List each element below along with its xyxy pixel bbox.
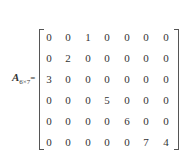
matrix-cell: 0 — [159, 51, 173, 65]
matrix-grid: 0010000020000030000000005000000060000000… — [42, 29, 174, 148]
matrix-row: 3000000 — [42, 72, 174, 88]
matrix-cell: 0 — [100, 30, 114, 44]
matrix-row: 0000600 — [42, 114, 174, 130]
matrix-cell: 0 — [61, 135, 75, 149]
matrix-cell: 2 — [61, 51, 75, 65]
matrix-cell: 4 — [159, 135, 173, 149]
matrix-cell: 0 — [61, 114, 75, 128]
matrix-row: 0200000 — [42, 51, 174, 67]
matrix-cell: 0 — [61, 72, 75, 86]
matrix-cell: 0 — [100, 114, 114, 128]
matrix-cell: 0 — [81, 72, 95, 86]
matrix-cell: 1 — [81, 30, 95, 44]
matrix-cell: 0 — [120, 93, 134, 107]
matrix-cell: 0 — [100, 51, 114, 65]
matrix-cell: 0 — [61, 93, 75, 107]
matrix-cell: 0 — [159, 93, 173, 107]
matrix-cell: 0 — [42, 135, 56, 149]
matrix-label: A6×7= — [12, 71, 35, 86]
matrix-cell: 0 — [42, 93, 56, 107]
matrix-cell: 7 — [139, 135, 153, 149]
matrix-row: 0010000 — [42, 30, 174, 46]
matrix-cell: 0 — [61, 30, 75, 44]
matrix-cell: 0 — [100, 135, 114, 149]
matrix-cell: 0 — [159, 72, 173, 86]
matrix-cell: 0 — [81, 114, 95, 128]
matrix-cell: 0 — [100, 72, 114, 86]
matrix-cell: 0 — [139, 93, 153, 107]
matrix-cell: 0 — [159, 114, 173, 128]
matrix-cell: 0 — [81, 135, 95, 149]
matrix-cell: 0 — [139, 114, 153, 128]
matrix-cell: 0 — [120, 72, 134, 86]
matrix-row: 0000074 — [42, 135, 174, 151]
matrix-cell: 0 — [139, 51, 153, 65]
matrix-cell: 3 — [42, 72, 56, 86]
matrix-cell: 0 — [139, 30, 153, 44]
matrix-cell: 0 — [42, 114, 56, 128]
matrix-cell: 0 — [139, 72, 153, 86]
matrix-cell: 0 — [42, 30, 56, 44]
matrix-cell: 0 — [81, 93, 95, 107]
matrix-cell: 0 — [42, 51, 56, 65]
matrix-cell: 6 — [120, 114, 134, 128]
matrix-dimensions: 6×7 — [19, 78, 30, 86]
matrix-cell: 5 — [100, 93, 114, 107]
matrix-cell: 0 — [120, 30, 134, 44]
matrix-row: 0005000 — [42, 93, 174, 109]
matrix-cell: 0 — [120, 135, 134, 149]
matrix-cell: 0 — [120, 51, 134, 65]
equals-sign: = — [30, 73, 35, 83]
matrix-cell: 0 — [81, 51, 95, 65]
right-bracket — [174, 29, 179, 150]
matrix-cell: 0 — [159, 30, 173, 44]
